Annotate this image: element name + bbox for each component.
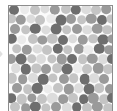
scatter-point [72,102,82,111]
scatter-point [32,64,41,73]
scatter-point [32,83,42,93]
scatter-point [106,14,112,23]
scatter-point [21,103,31,111]
scatter-point [30,102,40,111]
scatter-point [61,6,71,14]
scatter-point [103,65,112,75]
scatter-point [102,25,112,35]
dot-plot-panel [8,5,113,111]
scatter-point [87,53,97,63]
scatter-point [82,103,92,111]
scatter-point [73,64,83,74]
scatter-point [62,103,72,111]
scatter-point [69,74,79,84]
scatter-point [12,83,22,93]
scatter-point [38,35,47,44]
scatter-point [51,102,61,111]
scatter-point [66,14,76,24]
scatter-point [83,25,93,35]
scatter-point [62,25,72,35]
scatter-point [27,54,37,64]
scatter-point [9,73,17,83]
scatter-plot-area [9,6,112,111]
scatter-point [48,54,57,63]
scatter-point [9,33,17,43]
scatter-point [82,64,92,74]
scatter-point [90,74,100,84]
scatter-point [92,102,102,111]
scatter-point [21,25,31,35]
scatter-point [10,102,20,111]
scatter-point [18,75,28,85]
scatter-point [47,33,57,43]
scatter-point [68,34,78,44]
scatter-point [107,34,112,43]
scatter-point [41,64,51,74]
scatter-point [26,14,35,23]
scatter-point [33,44,42,53]
scatter-point [53,83,63,93]
scatter-point [94,83,104,93]
scatter-point [59,74,69,84]
scatter-point [74,44,84,54]
scatter-point [49,74,58,83]
scatter-point [42,103,51,111]
scatter-point [20,6,30,14]
scatter-point [11,64,21,74]
scatter-point [28,73,38,83]
scatter-point [82,6,92,14]
scatter-point [107,54,112,64]
scatter-point [92,24,102,34]
chevron-right-icon [0,46,7,62]
scatter-point [52,64,62,74]
scatter-point [53,43,63,53]
scatter-point [67,54,77,64]
scatter-point [36,54,46,64]
scatter-point [74,83,84,93]
scatter-point [41,6,50,14]
scatter-point [93,63,103,73]
scatter-point [89,34,99,44]
scatter-point [94,43,104,53]
scatter-point [101,6,111,14]
scatter-point [30,24,40,34]
scatter-point [10,24,20,34]
scatter-point [28,34,38,44]
thumbnail-root [0,0,117,111]
scatter-point [103,103,112,111]
scatter-point [86,14,96,24]
scatter-point [12,44,22,54]
scatter-point [107,93,112,103]
scatter-point [46,14,56,24]
scatter-point [72,24,82,34]
